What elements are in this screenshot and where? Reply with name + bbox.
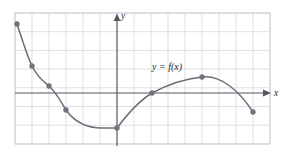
curve-equation-label: y = f(x) (151, 61, 183, 73)
data-point (46, 83, 51, 88)
data-point (14, 21, 19, 26)
graph-canvas: y x y = f(x) (0, 0, 282, 157)
figure-background (0, 0, 282, 157)
data-point (29, 63, 34, 68)
data-point (199, 74, 204, 79)
y-axis-label: y (120, 11, 126, 21)
data-point (114, 125, 119, 130)
data-point (250, 109, 255, 114)
data-point (63, 107, 68, 112)
function-graph-figure: y x y = f(x) (0, 0, 282, 157)
x-axis-label: x (273, 88, 279, 98)
data-point (149, 90, 154, 95)
